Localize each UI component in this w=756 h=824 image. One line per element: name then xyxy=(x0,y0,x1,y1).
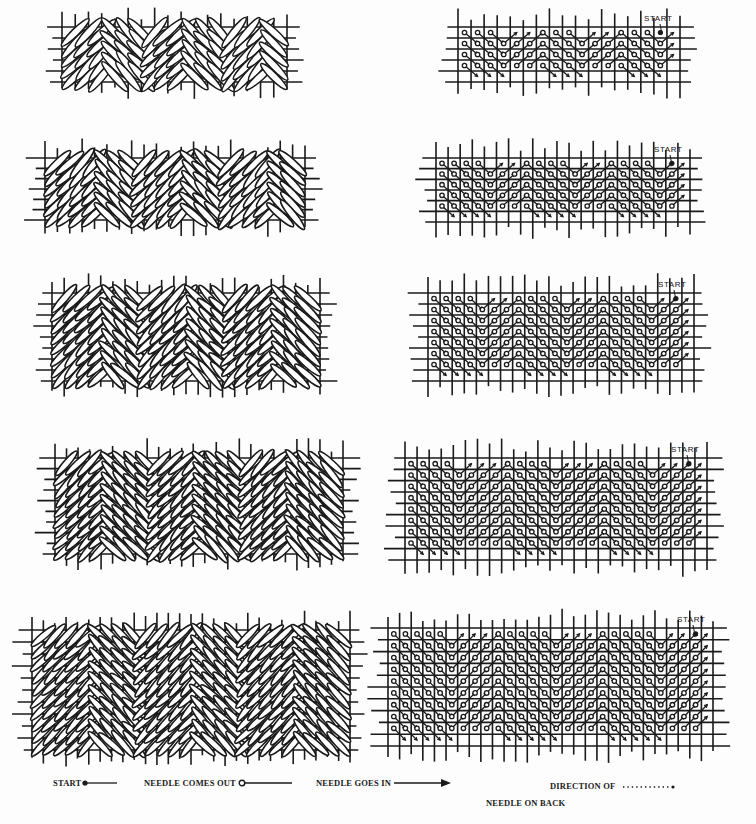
needle-out-icon xyxy=(415,714,419,718)
needle-out-icon xyxy=(609,193,613,197)
needle-out-icon xyxy=(456,362,460,366)
needle-out-icon xyxy=(415,726,419,730)
needle-out-icon xyxy=(403,644,407,648)
needle-out-icon xyxy=(614,507,618,511)
needle-out-icon xyxy=(565,340,569,344)
needle-out-icon xyxy=(529,340,533,344)
needle-out-icon xyxy=(566,530,570,534)
needle-out-icon xyxy=(504,318,508,322)
needle-out-icon xyxy=(553,351,557,355)
needle-out-icon xyxy=(433,518,437,522)
finished-stitches xyxy=(51,448,347,565)
needle-out-icon xyxy=(662,340,666,344)
needle-out-icon xyxy=(530,507,534,511)
needle-out-icon xyxy=(613,318,617,322)
needle-out-icon xyxy=(577,329,581,333)
needle-out-icon xyxy=(488,204,492,208)
needle-in-arrow-icon xyxy=(391,778,455,788)
needle-out-icon xyxy=(561,183,565,187)
needle-out-icon xyxy=(670,679,674,683)
needle-out-icon xyxy=(496,691,500,695)
needle-out-icon xyxy=(647,632,651,636)
needle-out-icon xyxy=(589,714,593,718)
needle-out-icon xyxy=(488,41,492,45)
needle-out-icon xyxy=(601,318,605,322)
needle-out-icon xyxy=(542,518,546,522)
needle-out-icon xyxy=(518,462,522,466)
needle-out-icon xyxy=(621,183,625,187)
needle-out-icon xyxy=(549,183,553,187)
needle-out-icon xyxy=(663,541,667,545)
needle-out-icon xyxy=(415,703,419,707)
needle-out-icon xyxy=(647,667,651,671)
needle-out-icon xyxy=(438,644,442,648)
needle-out-icon xyxy=(670,183,674,187)
needle-out-icon xyxy=(426,632,430,636)
needle-out-icon xyxy=(637,362,641,366)
needle-out-icon xyxy=(638,484,642,488)
needle-out-icon xyxy=(658,52,662,56)
needle-out-icon xyxy=(432,351,436,355)
needle-out-icon xyxy=(624,679,628,683)
needle-out-icon xyxy=(537,193,541,197)
needle-out-icon xyxy=(512,183,516,187)
needle-out-icon xyxy=(415,655,419,659)
stitch-diagram-canvas: STARTSTARTSTARTSTARTSTART xyxy=(0,0,756,824)
needle-out-icon xyxy=(662,318,666,322)
needle-out-icon xyxy=(496,703,500,707)
needle-out-icon xyxy=(426,667,430,671)
needle-out-icon xyxy=(433,507,437,511)
needle-out-icon xyxy=(663,484,667,488)
needle-out-icon xyxy=(632,41,636,45)
needle-out-icon xyxy=(580,52,584,56)
needle-out-icon xyxy=(682,726,686,730)
needle-out-icon xyxy=(601,667,605,671)
needle-out-icon xyxy=(554,679,558,683)
needle-out-icon xyxy=(647,644,651,648)
needle-out-icon xyxy=(577,714,581,718)
needle-out-icon xyxy=(488,183,492,187)
needle-out-icon xyxy=(553,307,557,311)
needle-out-icon xyxy=(674,362,678,366)
needle-out-icon xyxy=(566,691,570,695)
needle-out-icon xyxy=(646,161,650,165)
needle-out-icon xyxy=(473,644,477,648)
needle-out-icon xyxy=(675,518,679,522)
needle-out-icon xyxy=(488,172,492,176)
needle-out-icon xyxy=(624,726,628,730)
needle-out-icon xyxy=(445,462,449,466)
needle-out-icon xyxy=(637,340,641,344)
needle-out-icon xyxy=(543,632,547,636)
needle-out-icon xyxy=(543,691,547,695)
start-label: START xyxy=(658,280,686,289)
needle-out-icon xyxy=(662,351,666,355)
needle-out-icon xyxy=(589,307,593,311)
panel-v4: START xyxy=(35,438,724,577)
needle-out-icon xyxy=(457,484,461,488)
needle-out-icon xyxy=(637,307,641,311)
needle-out-icon xyxy=(585,193,589,197)
needle-out-icon xyxy=(473,703,477,707)
legend-direction-line2: NEEDLE ON BACK xyxy=(486,795,677,812)
needle-out-icon xyxy=(647,714,651,718)
needle-out-icon xyxy=(650,484,654,488)
needle-out-icon xyxy=(508,655,512,659)
needle-out-icon xyxy=(452,161,456,165)
needle-out-icon xyxy=(624,644,628,648)
needle-out-icon xyxy=(403,655,407,659)
needle-out-icon xyxy=(593,63,597,67)
needle-out-icon xyxy=(693,691,697,695)
needle-out-icon xyxy=(529,351,533,355)
working-diagram xyxy=(462,30,673,77)
needle-out-icon xyxy=(693,726,697,730)
needle-out-icon xyxy=(543,644,547,648)
needle-out-icon xyxy=(506,518,510,522)
needle-out-icon xyxy=(650,473,654,477)
needle-out-icon xyxy=(444,296,448,300)
needle-out-icon xyxy=(682,691,686,695)
needle-out-icon xyxy=(462,52,466,56)
needle-out-icon xyxy=(433,496,437,500)
needle-out-icon xyxy=(589,362,593,366)
needle-out-icon xyxy=(674,307,678,311)
needle-out-icon xyxy=(480,318,484,322)
